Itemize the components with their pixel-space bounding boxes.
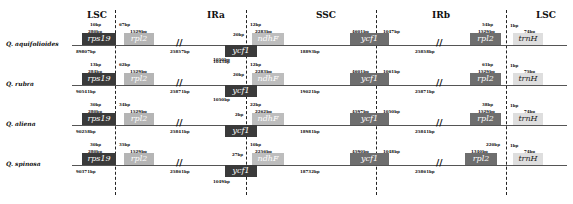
irb-length-label: 25861bp xyxy=(415,169,435,174)
rpl2-gap-label: 34bp xyxy=(119,102,130,107)
ssc-length-label: 18732bp xyxy=(300,169,320,174)
break-mark: // xyxy=(176,79,183,88)
genome-backbone xyxy=(72,85,567,86)
rpl2-gap-label: 62bp xyxy=(119,62,130,67)
trnh-gap-label: 1bp xyxy=(510,63,518,68)
genome-backbone xyxy=(72,125,567,126)
ssc-length-label: 18893bp xyxy=(300,49,320,54)
gene-rpl2-irb: rpl2 xyxy=(470,73,501,85)
ycf1-overhang-label: 2bp xyxy=(235,112,243,117)
ndhf-gap-label: 10bp xyxy=(250,142,261,147)
irb-length-label: 25841bp xyxy=(415,129,435,134)
ndhf-gap-label: 12bp xyxy=(250,22,261,27)
gene-rps19: rps19 xyxy=(82,73,116,85)
gene-ycf1-irb: ycf1 xyxy=(350,153,389,165)
gene-trnh: trnH xyxy=(513,113,543,125)
break-mark: // xyxy=(436,79,443,88)
ssc-length-label: 18981bp xyxy=(300,129,320,134)
track-q-spinosa: Q. spinosa 30bp 35bp 280bp rps19 1529bp … xyxy=(0,142,573,188)
species-label: Q. aquifolioides xyxy=(6,40,59,47)
break-mark: // xyxy=(176,39,183,48)
break-mark: // xyxy=(436,39,443,48)
species-label: Q. spinosa xyxy=(6,160,41,167)
gene-ycf1-ira: ycf1 xyxy=(225,45,257,57)
gene-rpl2-irb: rpl2 xyxy=(470,113,501,125)
ycf1-overhang-label: 27bp xyxy=(232,152,243,157)
rpl2-irb-gap-label: 38bp xyxy=(482,102,493,107)
ssc-length-label: 19021bp xyxy=(300,89,320,94)
gene-trnh: trnH xyxy=(513,73,543,85)
region-label-lsc-right: LSC xyxy=(536,10,556,20)
rpl2-irb-gap-label: 61bp xyxy=(482,62,493,67)
irb-length-label: 25871bp xyxy=(415,89,435,94)
gene-rps19: rps19 xyxy=(82,113,116,125)
ycf1-irb-right-label: 1048bp xyxy=(383,149,400,154)
gene-rpl2-irb: rpl2 xyxy=(465,153,497,165)
gene-rps19: rps19 xyxy=(82,33,116,45)
break-mark: // xyxy=(436,119,443,128)
break-mark: // xyxy=(436,159,443,168)
gene-rps19: rps19 xyxy=(82,153,116,165)
rpl2-irb-gap-label: 54bp xyxy=(482,22,493,27)
trnh-gap-label: 1bp xyxy=(510,143,518,148)
gene-trnh: trnH xyxy=(513,153,543,165)
species-label: Q. rubra xyxy=(6,80,34,87)
genome-backbone xyxy=(72,165,567,166)
rpl2-irb-gap-label: 220bp xyxy=(486,142,500,147)
rps19-overhang-label: 30bp xyxy=(90,142,101,147)
lsc-length-label: 90258bp xyxy=(76,129,96,134)
break-mark: // xyxy=(176,159,183,168)
gene-ycf1-irb: ycf1 xyxy=(350,113,389,125)
gene-ycf1-ira: ycf1 xyxy=(225,85,257,97)
ycf1-overhang-label: 20bp xyxy=(233,72,244,77)
rps19-overhang-label: 10bp xyxy=(90,22,101,27)
ycf1-ira-length-label: 1050bp xyxy=(213,57,230,62)
rps19-overhang-label: 13bp xyxy=(90,62,101,67)
gene-ycf1-irb: ycf1 xyxy=(350,73,389,85)
region-label-lsc-left: LSC xyxy=(87,10,107,20)
gene-rpl2-irb: rpl2 xyxy=(470,33,501,45)
gene-trnh: trnH xyxy=(513,33,543,45)
gene-rpl2-ira: rpl2 xyxy=(124,73,154,85)
gene-ndhf: ndhF xyxy=(252,113,284,125)
break-mark: // xyxy=(176,119,183,128)
rpl2-gap-label: 67bp xyxy=(119,22,130,27)
ira-length-label: 25841bp xyxy=(170,129,190,134)
ycf1-ira-length-label: 1049bp xyxy=(213,179,230,184)
region-label-ssc: SSC xyxy=(316,10,336,20)
ira-length-label: 25871bp xyxy=(170,89,190,94)
gene-ndhf: ndhF xyxy=(252,73,284,85)
gene-ycf1-ira: ycf1 xyxy=(225,125,257,137)
ycf1-ira-length-label: 1050bp xyxy=(213,97,230,102)
ycf1-irb-right-label: 1050bp xyxy=(383,109,400,114)
ycf1-irb-right-label: 1047bp xyxy=(383,29,400,34)
lsc-length-label: 90371bp xyxy=(76,169,96,174)
gene-rpl2-ira: rpl2 xyxy=(124,113,154,125)
gene-ndhf: ndhF xyxy=(252,153,284,165)
trnh-gap-label: 1bp xyxy=(510,23,518,28)
lsc-length-label: 90541bp xyxy=(76,89,96,94)
lsc-length-label: 89807bp xyxy=(76,49,96,54)
ira-length-label: 25857bp xyxy=(170,49,190,54)
gene-ycf1-ira: ycf1 xyxy=(225,165,257,177)
species-label: Q. aliena xyxy=(6,120,36,127)
ira-length-label: 25861bp xyxy=(170,169,190,174)
rps19-overhang-label: 30bp xyxy=(90,102,101,107)
ycf1-irb-right-label: 1061bp xyxy=(383,69,400,74)
trnh-gap-label: 1bp xyxy=(510,103,518,108)
ndhf-gap-label: 12bp xyxy=(250,62,261,67)
gene-rpl2-ira: rpl2 xyxy=(124,153,154,165)
region-label-irb: IRb xyxy=(432,10,450,20)
gene-ycf1-irb: ycf1 xyxy=(350,33,389,45)
ycf1-overhang-label: 20bp xyxy=(233,32,244,37)
genome-backbone xyxy=(72,45,567,46)
ndhf-gap-label: 22bp xyxy=(250,102,261,107)
gene-rpl2-ira: rpl2 xyxy=(124,33,154,45)
gene-ndhf: ndhF xyxy=(252,33,284,45)
rpl2-gap-label: 35bp xyxy=(119,142,130,147)
irb-length-label: 25858bp xyxy=(415,49,435,54)
region-label-ira: IRa xyxy=(207,10,225,20)
